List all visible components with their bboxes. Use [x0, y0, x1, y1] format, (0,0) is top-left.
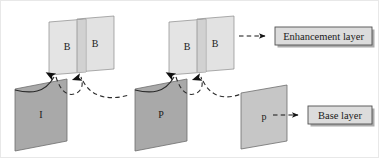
enhancement-group-1: B B — [49, 16, 114, 75]
diagram-canvas: B B B B — [0, 0, 379, 158]
legend-enhancement[interactable]: Enhancement layer — [239, 27, 375, 48]
legend-base-label: Base layer — [318, 110, 363, 121]
prediction-link-dashed-1 — [83, 81, 129, 98]
legend-enhancement-label: Enhancement layer — [283, 31, 364, 42]
enhancement-plane-1-front-label: B — [64, 41, 71, 52]
layer-diagram: B B B B — [1, 1, 379, 158]
enhancement-plane-1-back-label: B — [92, 38, 99, 49]
base-frame-2-label: P — [158, 109, 164, 120]
enhancement-group-2: B B — [169, 16, 234, 75]
enhancement-plane-2-front: B — [169, 19, 206, 75]
enhancement-plane-2-front-label: B — [184, 41, 191, 52]
legend-base[interactable]: Base layer — [273, 106, 375, 127]
prediction-link-dashed-2 — [203, 81, 241, 97]
enhancement-plane-1-front: B — [49, 19, 86, 75]
base-frame-3-label: p — [262, 111, 267, 122]
base-frame-3: p — [241, 85, 287, 149]
base-frame-1-label: I — [39, 109, 42, 120]
enhancement-plane-2-back-label: B — [212, 38, 219, 49]
